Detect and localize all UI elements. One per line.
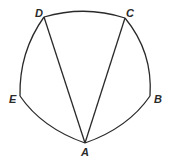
arc-b-c: [125, 18, 150, 96]
label-e: E: [9, 93, 17, 105]
label-d: D: [35, 7, 43, 19]
arc-a-b: [85, 96, 150, 143]
arc-c-d: [44, 11, 125, 18]
label-a: A: [80, 146, 89, 158]
label-b: B: [154, 93, 162, 105]
geometry-diagram: D C B A E: [0, 0, 171, 163]
label-c: C: [126, 7, 135, 19]
segment-a-d: [44, 17, 85, 143]
arc-e-a: [20, 96, 85, 143]
segment-a-c: [85, 18, 125, 143]
arc-d-e: [20, 17, 44, 96]
